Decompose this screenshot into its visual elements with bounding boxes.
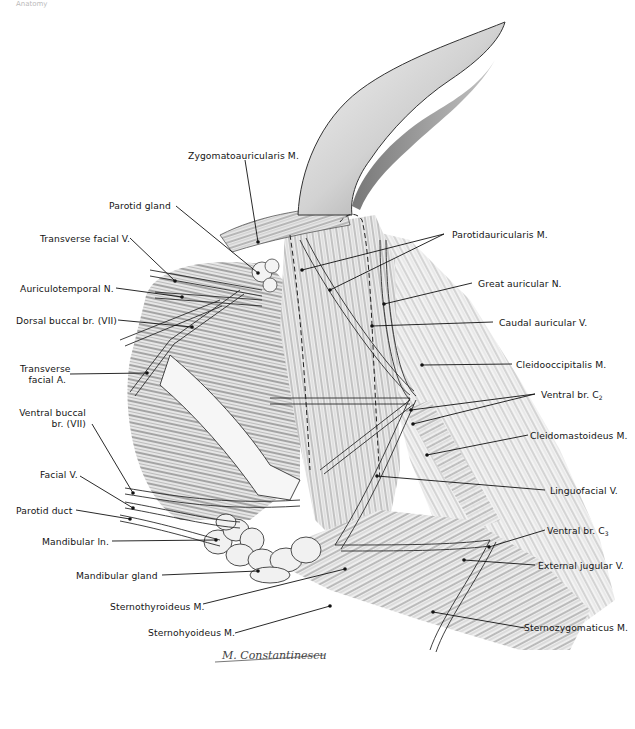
anatomy-figure: Anatomy Zygomatoauricularis M. Parotid g…	[0, 0, 635, 729]
label-parotid-duct: Parotid duct	[16, 505, 72, 516]
label-transverse-facial-v: Transverse facial V.	[40, 233, 130, 244]
label-ventral-buccal-1: Ventral buccal	[10, 407, 86, 418]
label-mandibular-ln: Mandibular ln.	[42, 536, 109, 547]
label-ventral-br-c2-subscript: 2	[599, 394, 603, 401]
label-caudal-auricular-v: Caudal auricular V.	[499, 317, 587, 328]
corner-text: Anatomy	[16, 0, 48, 8]
label-cleidomastoideus: Cleidomastoideus M.	[530, 430, 628, 441]
label-dorsal-buccal: Dorsal buccal br. (VII)	[16, 315, 117, 326]
label-sternothyroideus: Sternothyroideus M.	[110, 601, 205, 612]
label-linguofacial-v: Linguofacial V.	[550, 485, 618, 496]
label-transverse-facial-a-1: Transverse	[20, 363, 66, 374]
label-ventral-br-c2: Ventral br. C2	[541, 389, 603, 403]
label-transverse-facial-a-2: facial A.	[20, 374, 66, 385]
ear-pinna	[298, 22, 505, 215]
label-ventral-buccal-2: br. (VII)	[10, 418, 86, 429]
label-auriculotemporal-n: Auriculotemporal N.	[20, 283, 114, 294]
label-great-auricular-n: Great auricular N.	[478, 278, 562, 289]
artist-signature: M. Constantinescu	[222, 649, 327, 662]
label-parotidauricularis: Parotidauricularis M.	[452, 229, 548, 240]
label-ventral-br-c3-subscript: 3	[605, 530, 609, 537]
label-external-jugular-v: External jugular V.	[538, 560, 624, 571]
label-sternohyoideus: Sternohyoideus M.	[148, 627, 235, 638]
label-cleidooccipitalis: Cleidooccipitalis M.	[516, 359, 606, 370]
label-ventral-br-c3: Ventral br. C3	[547, 525, 609, 539]
label-ventral-br-c2-text: Ventral br. C	[541, 389, 599, 400]
label-facial-v: Facial V.	[40, 469, 78, 480]
label-sternozygomaticus: Sternozygomaticus M.	[524, 622, 628, 633]
label-parotid-gland: Parotid gland	[109, 200, 171, 211]
label-ventral-br-c3-text: Ventral br. C	[547, 525, 605, 536]
label-mandibular-gland: Mandibular gland	[76, 570, 158, 581]
label-zygomatoauricularis: Zygomatoauricularis M.	[188, 150, 299, 161]
